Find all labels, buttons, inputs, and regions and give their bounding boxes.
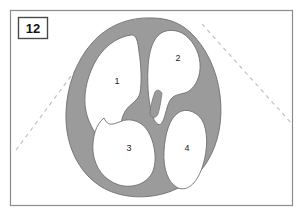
anatomical-diagram-svg: 1 2 3 4 12 [0, 0, 304, 218]
panel-number-badge: 12 [19, 18, 48, 39]
panel-number-label: 12 [26, 21, 40, 36]
structure-label-1: 1 [114, 76, 119, 86]
structure-label-4: 4 [184, 143, 189, 153]
structure-label-2: 2 [175, 53, 180, 63]
structure-label-3: 3 [126, 143, 131, 153]
figure-panel: 1 2 3 4 12 [0, 0, 304, 218]
